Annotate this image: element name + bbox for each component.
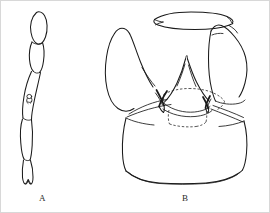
second-segment-outer xyxy=(40,43,45,73)
median-process-inner-right xyxy=(189,65,197,87)
apical-oval-segment xyxy=(31,12,48,45)
second-segment-joint-top xyxy=(32,42,43,44)
second-segment xyxy=(29,42,33,72)
figure-a-drawing xyxy=(20,12,47,184)
figure-a-label: A xyxy=(39,193,46,203)
fourth-segment-left xyxy=(20,119,24,159)
median-process-left xyxy=(165,59,186,102)
second-segment-joint-bottom xyxy=(34,72,40,74)
figure-b-label: B xyxy=(182,193,188,203)
right-lateral-lobe xyxy=(211,25,247,97)
hidden-outline-lower-right xyxy=(196,122,206,127)
connective-arc-center-upper xyxy=(166,105,211,113)
dorsal-band-hook xyxy=(155,20,164,25)
fourth-segment-joint xyxy=(24,159,30,161)
dorsal-band-lower xyxy=(154,20,233,30)
right-lateral-lobe-inner xyxy=(209,31,216,101)
basal-plate-rim-right xyxy=(219,121,244,127)
plate-drawing xyxy=(1,1,270,213)
dorsal-band-upper xyxy=(155,12,233,23)
hidden-outline-lower-base xyxy=(170,124,197,127)
sensillum xyxy=(27,94,32,103)
basal-plate-left xyxy=(122,118,126,171)
median-process-right xyxy=(188,59,210,102)
basal-plate-base-inner xyxy=(129,173,238,185)
median-process-inner-left xyxy=(177,64,185,86)
median-process-apex xyxy=(186,56,188,60)
fourth-segment-right xyxy=(30,120,33,160)
right-lobe-fold-line xyxy=(212,33,223,35)
left-lateral-lobe-top xyxy=(115,28,154,87)
third-segment-joint xyxy=(23,118,32,120)
left-lateral-lobe xyxy=(105,34,134,112)
basal-plate-right xyxy=(243,121,247,170)
figure-plate: A B xyxy=(0,0,270,213)
right-lobe-basal-edge xyxy=(216,100,246,104)
basal-plate-rim-left xyxy=(126,118,154,125)
terminal-segment-notch xyxy=(26,180,31,184)
basal-plate-base xyxy=(126,170,243,184)
figure-b-drawing xyxy=(105,12,247,184)
third-segment-right xyxy=(32,73,41,120)
left-lobe-fold-line xyxy=(142,68,155,87)
